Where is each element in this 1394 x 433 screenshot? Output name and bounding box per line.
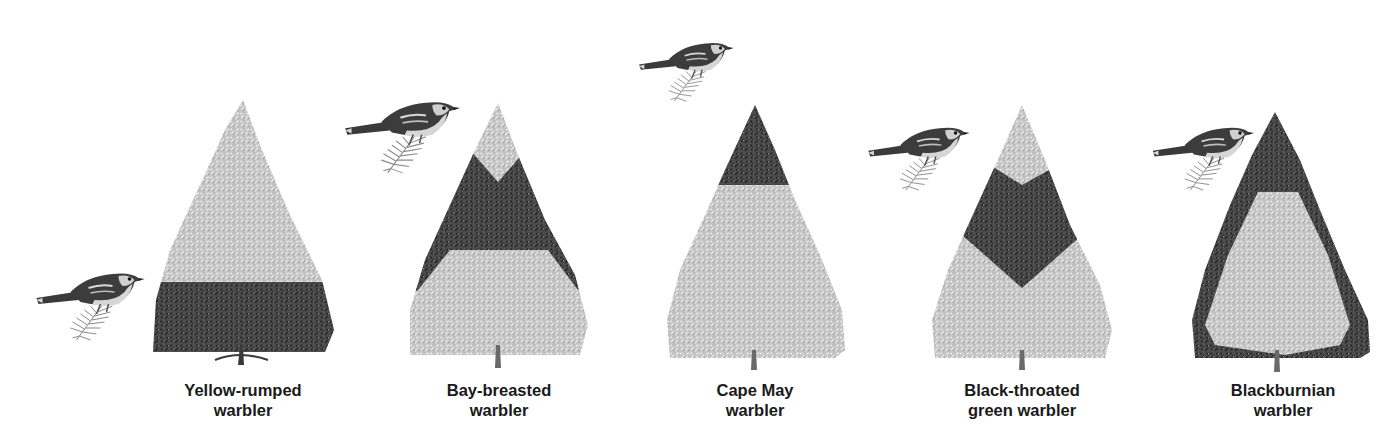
warbler-feeding-zones-figure: Yellow-rumped warbler Bay-breasted warbl…: [0, 0, 1394, 433]
warbler-bird-icon: [0, 0, 1394, 380]
species-label: Blackburnian warbler: [1231, 380, 1336, 420]
panel-blackburnian-warbler: Blackburnian warbler: [0, 0, 1394, 433]
